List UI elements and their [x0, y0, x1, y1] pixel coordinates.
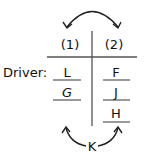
- entry-col2-row3: H: [111, 107, 121, 120]
- entry-col2-row2: J: [114, 86, 118, 99]
- entry-col1-row1: L: [63, 66, 70, 79]
- entry-col1-row2: G: [62, 86, 72, 99]
- row-label-driver: Driver:: [3, 66, 47, 79]
- column-2-header: (2): [105, 38, 123, 51]
- bottom-label-k: K: [88, 140, 97, 153]
- top-arc-arrow: [67, 12, 118, 28]
- column-1-header: (1): [61, 38, 79, 51]
- entry-col2-row1: F: [112, 66, 119, 79]
